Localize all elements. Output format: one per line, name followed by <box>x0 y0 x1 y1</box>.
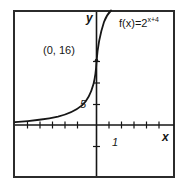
y-intercept-point <box>95 59 99 63</box>
function-equation-label: f(x)=2x+4 <box>119 18 159 29</box>
function-equation-exponent: x+4 <box>147 16 158 23</box>
y-tick-label-5: 5 <box>80 99 86 110</box>
y-axis-label: y <box>86 12 93 24</box>
x-tick-label-1: 1 <box>112 137 118 148</box>
function-equation-base: f(x)=2 <box>119 17 147 29</box>
x-axis-label: x <box>162 131 169 143</box>
exponential-function-graph: y x 5 1 (0, 16) f(x)=2x+4 <box>0 0 183 189</box>
y-intercept-annotation: (0, 16) <box>43 45 75 56</box>
